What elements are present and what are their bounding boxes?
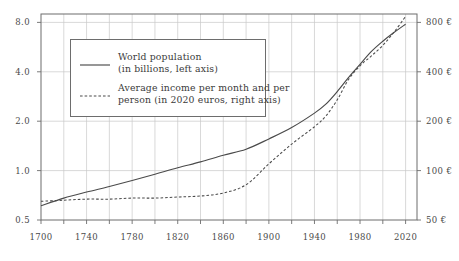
legend-label-line1: World population [118,51,202,62]
legend-label-line2: person (in 2020 euros, right axis) [118,94,281,105]
legend-label-world-population: World population (in billions, left axis… [118,51,218,75]
x-axis-tick-label: 1820 [158,232,198,242]
x-axis-tick-label: 1860 [203,232,243,242]
right-axis-tick-label: 50 € [426,215,459,225]
legend-item-world-population: World population (in billions, left axis… [80,51,218,75]
left-axis-tick-label: 8.0 [4,17,30,27]
x-axis-tick-label: 1780 [112,232,152,242]
x-axis-tick-label: 1900 [249,232,289,242]
legend-item-average-income: Average income per month and per person … [80,82,290,106]
left-axis-tick-label: 1.0 [4,166,30,176]
right-axis-tick-label: 800 € [426,17,459,27]
left-axis-tick-label: 2.0 [4,116,30,126]
x-axis-tick-label: 1740 [67,232,107,242]
x-axis-tick-label: 2020 [386,232,426,242]
right-axis-tick-label: 400 € [426,67,459,77]
legend-swatch-solid-line [80,55,110,65]
legend-label-average-income: Average income per month and per person … [118,82,290,106]
legend-label-line2: (in billions, left axis) [118,63,218,74]
legend: World population (in billions, left axis… [70,39,266,117]
left-axis-tick-label: 4.0 [4,67,30,77]
x-axis-tick-label: 1980 [340,232,380,242]
x-axis-tick-label: 1940 [294,232,334,242]
legend-swatch-dashed-line [80,86,110,96]
right-axis-tick-label: 100 € [426,166,459,176]
legend-label-line1: Average income per month and per [118,82,290,93]
x-axis-tick-label: 1700 [21,232,61,242]
right-axis-tick-label: 200 € [426,116,459,126]
chart-figure: 0.51.02.04.08.0 50 €100 €200 €400 €800 €… [0,0,459,261]
left-axis-tick-label: 0.5 [4,215,30,225]
